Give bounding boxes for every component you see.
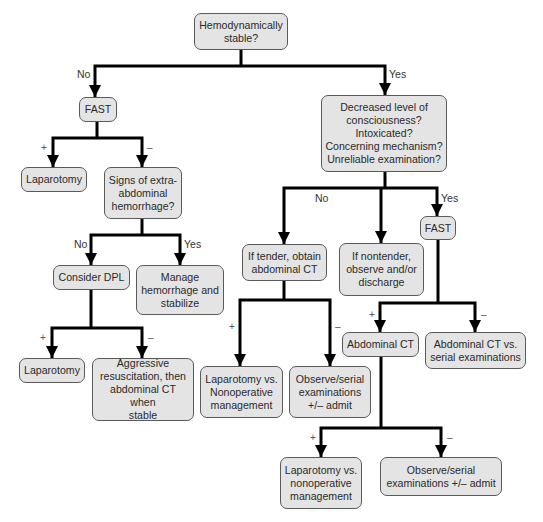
edge-label-plus: + — [41, 143, 47, 153]
edge-label-plus: + — [369, 310, 375, 320]
node-if-nontender: If nontender, observe and/or discharge — [339, 243, 424, 296]
edge-label-yes: Yes — [389, 69, 406, 80]
node-observe-serial-1: Observe/serial examinations +/– admit — [289, 366, 371, 418]
node-laparotomy-2: Laparotomy — [19, 358, 85, 383]
node-laparotomy-vs-nonop-1: Laparotomy vs. Nonoperative management — [200, 366, 283, 418]
edge-label-minus: – — [335, 322, 341, 332]
node-manage-hemorrhage: Manage hemorrhage and stabilize — [136, 265, 224, 315]
edge-label-plus: + — [310, 433, 316, 443]
node-aggressive-resuscitation: Aggressive resuscitation, then abdominal… — [92, 358, 194, 421]
node-signs-extra-abdominal: Signs of extra- abdominal hemorrhage? — [104, 167, 182, 219]
node-if-tender: If tender, obtain abdominal CT — [242, 244, 327, 281]
edge-label-minus: – — [481, 310, 487, 320]
edge-label-plus: + — [229, 322, 235, 332]
node-ct-vs-serial: Abdominal CT vs. serial examinations — [425, 332, 526, 369]
edge-label-yes: Yes — [441, 193, 458, 204]
node-fast-stable: FAST — [420, 216, 456, 240]
node-hemodynamically-stable: Hemodynamically stable? — [194, 13, 288, 50]
edge-label-minus: – — [147, 143, 153, 153]
node-observe-serial-2: Observe/serial examinations +/– admit — [380, 457, 502, 496]
edge-label-no: No — [77, 69, 90, 80]
edge-label-minus: – — [148, 333, 154, 343]
node-fast-unstable: FAST — [79, 97, 117, 122]
node-consider-dpl: Consider DPL — [53, 265, 130, 290]
node-abdominal-ct: Abdominal CT — [342, 332, 419, 357]
edge-label-minus: – — [447, 433, 453, 443]
node-laparotomy-vs-nonop-2: Laparotomy vs. nonoperative management — [280, 457, 362, 509]
node-decreased-loc: Decreased level of consciousness? Intoxi… — [321, 95, 447, 172]
edge-label-yes: Yes — [184, 239, 201, 250]
edge-label-no: No — [74, 239, 87, 250]
node-laparotomy-1: Laparotomy — [21, 167, 87, 192]
flowchart-canvas: Hemodynamically stable? FAST Laparotomy … — [0, 0, 543, 522]
edge-label-no: No — [315, 193, 328, 204]
edge-label-plus: + — [40, 333, 46, 343]
